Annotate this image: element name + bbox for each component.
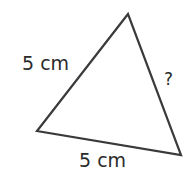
unknown-side-label: ?: [164, 71, 173, 88]
left-side-length-label: 5 cm: [22, 54, 69, 73]
bottom-side-length-label: 5 cm: [79, 151, 126, 170]
triangle-diagram: 5 cm 5 cm ?: [0, 0, 190, 181]
triangle-outline: [37, 14, 181, 155]
